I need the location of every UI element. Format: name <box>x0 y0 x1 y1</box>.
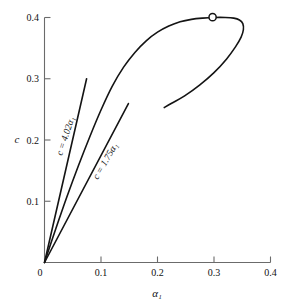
x-tick-label-0: 0 <box>38 267 43 278</box>
critical-point-marker <box>209 14 216 21</box>
y-axis-title: c <box>15 133 20 145</box>
y-tick-label-0.2: 0.2 <box>27 135 40 146</box>
marker-group <box>209 14 216 21</box>
y-tick-label-0.1: 0.1 <box>27 196 40 207</box>
chart-figure: 0.4 0.3 0.2 0.1 c 0 0.1 0.2 0.3 0.4 α₁ <box>0 0 292 303</box>
x-tick-label-0.3: 0.3 <box>208 267 221 278</box>
x-tick-label-0.4: 0.4 <box>264 267 277 278</box>
y-tick-label-0.4: 0.4 <box>27 12 40 23</box>
x-axis-title: α₁ <box>152 287 162 299</box>
x-tick-label-0.1: 0.1 <box>95 267 108 278</box>
chart-svg: 0.4 0.3 0.2 0.1 c 0 0.1 0.2 0.3 0.4 α₁ <box>0 0 292 303</box>
y-tick-label-0.3: 0.3 <box>27 73 40 84</box>
chart-background <box>0 0 292 303</box>
x-tick-label-0.2: 0.2 <box>151 267 164 278</box>
